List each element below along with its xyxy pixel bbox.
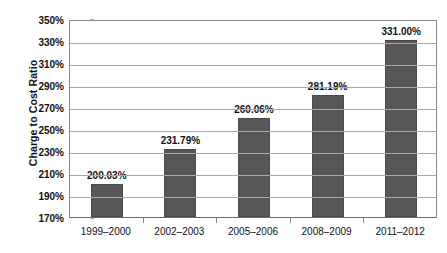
bar-slot: 200.03% — [70, 21, 144, 217]
bar-value-label: 331.00% — [381, 26, 420, 37]
x-axis-category-label: 2011–2012 — [376, 226, 425, 237]
y-axis-tick-label: 210% — [22, 169, 64, 180]
y-axis-tick-label: 170% — [22, 213, 64, 224]
x-axis-tick-mark — [363, 218, 364, 223]
gridline — [70, 131, 436, 132]
x-axis-tick-mark — [290, 218, 291, 223]
bar[interactable] — [164, 149, 196, 217]
gridline — [70, 43, 436, 44]
bar-value-label: 231.79% — [161, 135, 200, 146]
gridline — [70, 87, 436, 88]
x-axis-tick-mark — [216, 218, 217, 223]
x-axis-category-label: 1999–2000 — [81, 226, 131, 237]
bars-layer: 200.03%231.79%260.06%281.19%331.00% — [70, 21, 436, 217]
bar-slot: 231.79% — [144, 21, 218, 217]
x-axis-category-label: 2008–2009 — [302, 226, 352, 237]
bar-chart: Charge to Cost Ratio 350%330%310%290%270… — [0, 0, 447, 253]
gridline — [70, 197, 436, 198]
bar[interactable] — [385, 40, 417, 217]
x-axis-label-group: 1999–20002002–20032005–20062008–20092011… — [69, 226, 437, 244]
y-axis-tick-label: 330% — [22, 37, 64, 48]
x-axis-tick-group — [69, 218, 437, 224]
y-axis-tick-label: 310% — [22, 59, 64, 70]
bar-slot: 260.06% — [217, 21, 291, 217]
y-axis-tick-label: 350% — [22, 15, 64, 26]
y-axis-tick-label: 230% — [22, 147, 64, 158]
y-axis-tick-label: 290% — [22, 81, 64, 92]
x-axis-tick-mark — [143, 218, 144, 223]
y-axis-tick-label: 270% — [22, 103, 64, 114]
gridline — [70, 109, 436, 110]
x-axis-category-label: 2005–2006 — [228, 226, 278, 237]
bar-slot: 281.19% — [291, 21, 365, 217]
y-axis-tick-label: 190% — [22, 191, 64, 202]
gridline — [70, 175, 436, 176]
gridline — [70, 65, 436, 66]
y-axis-tick-label: 250% — [22, 125, 64, 136]
bar[interactable] — [91, 184, 123, 217]
plot-area: 200.03%231.79%260.06%281.19%331.00% — [69, 20, 437, 218]
x-axis-category-label: 2002–2003 — [154, 226, 204, 237]
bar-slot: 331.00% — [364, 21, 438, 217]
gridline — [70, 153, 436, 154]
bar[interactable] — [238, 118, 270, 217]
bar[interactable] — [312, 95, 344, 217]
y-axis-tick-group: 350%330%310%290%270%250%230%210%190%170% — [24, 20, 64, 218]
